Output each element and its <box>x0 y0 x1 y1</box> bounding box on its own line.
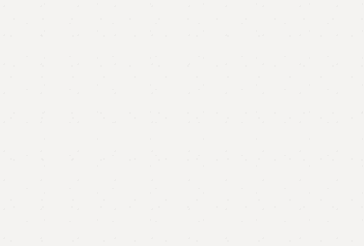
figure-container <box>0 0 364 246</box>
two-panel-line-chart <box>0 0 364 246</box>
